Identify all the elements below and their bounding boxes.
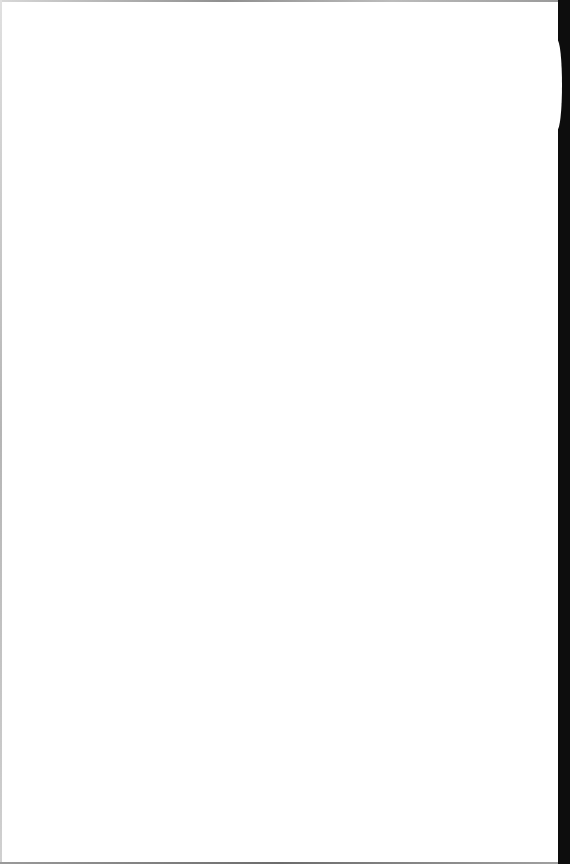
blank-page: [0, 0, 560, 864]
page-left-edge: [0, 0, 2, 864]
scanner-dark-border: [558, 0, 570, 864]
page-top-edge: [0, 0, 560, 2]
scanned-document: [0, 0, 570, 864]
